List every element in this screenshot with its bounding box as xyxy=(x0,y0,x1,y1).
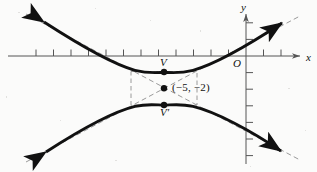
vertex-lower-label: V′ xyxy=(160,107,169,118)
marked-points xyxy=(161,69,167,108)
graph-canvas xyxy=(0,0,317,172)
x-axis-label: x xyxy=(306,52,311,63)
origin-label: O xyxy=(233,58,241,69)
point-center xyxy=(161,85,167,91)
x-axis-ticks xyxy=(36,50,281,57)
vertex-upper-label: V xyxy=(160,57,167,68)
point-vertex-upper xyxy=(161,69,167,75)
y-axis-label: y xyxy=(241,2,246,13)
hyperbola-figure: x y O V V′ (−5, −2) xyxy=(0,0,317,172)
axes-group xyxy=(8,14,300,164)
center-point-label: (−5, −2) xyxy=(172,82,210,93)
